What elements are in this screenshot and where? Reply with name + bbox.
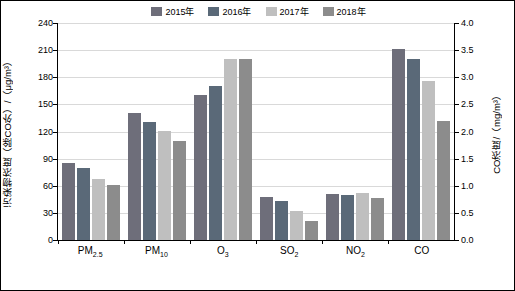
bar (275, 201, 288, 240)
right-tick-label: 3.5 (461, 45, 501, 55)
bar (224, 59, 237, 240)
category-label: PM2.5 (78, 245, 103, 258)
right-tick-label: 0.5 (461, 208, 501, 218)
plot-area (57, 23, 455, 241)
category-separator (58, 240, 59, 244)
bar (194, 95, 207, 240)
bar (305, 221, 318, 240)
legend-item-2018: 2018年 (323, 5, 366, 18)
bar-group (190, 23, 256, 240)
bar (437, 121, 450, 240)
category-separator (322, 240, 323, 244)
left-tick-label: 30 (13, 208, 53, 218)
right-tick-mark (455, 186, 459, 187)
bar-group (322, 23, 388, 240)
right-tick-mark (455, 159, 459, 160)
left-tick-label: 120 (13, 127, 53, 137)
category-separator (124, 240, 125, 244)
bar (173, 141, 186, 240)
right-tick-mark (455, 104, 459, 105)
left-tick-label: 240 (13, 18, 53, 28)
bar-group (256, 23, 322, 240)
bar (77, 168, 90, 240)
bar (158, 131, 171, 240)
bar-group (58, 23, 124, 240)
right-tick-mark (455, 213, 459, 214)
bar (392, 49, 405, 240)
legend-label-2018: 2018年 (337, 5, 366, 18)
right-tick-label: 1.0 (461, 181, 501, 191)
right-tick-label: 4.0 (461, 18, 501, 28)
bar (407, 59, 420, 240)
legend-label-2017: 2017年 (280, 5, 309, 18)
right-tick-mark (455, 240, 459, 241)
left-tick-label: 210 (13, 45, 53, 55)
chart-legend: 2015年 2016年 2017年 2018年 (1, 5, 515, 18)
bar (341, 195, 354, 240)
right-tick-mark (455, 23, 459, 24)
legend-item-2017: 2017年 (266, 5, 309, 18)
bar (326, 194, 339, 240)
legend-swatch-2015 (151, 7, 162, 16)
bar (356, 193, 369, 240)
right-tick-label: 2.0 (461, 127, 501, 137)
category-separator (256, 240, 257, 244)
right-tick-mark (455, 50, 459, 51)
bar (371, 198, 384, 240)
bar (422, 81, 435, 240)
category-label: NO2 (346, 245, 365, 258)
right-tick-label: 0.0 (461, 235, 501, 245)
bar (92, 179, 105, 240)
legend-label-2015: 2015年 (165, 5, 194, 18)
bar-groups (58, 23, 454, 240)
left-tick-label: 60 (13, 181, 53, 191)
legend-swatch-2018 (323, 7, 334, 16)
right-tick-label: 1.5 (461, 154, 501, 164)
bar (62, 163, 75, 240)
left-tick-label: 180 (13, 72, 53, 82)
category-label: SO2 (280, 245, 298, 258)
legend-label-2016: 2016年 (222, 5, 251, 18)
category-separator (388, 240, 389, 244)
category-label: PM10 (145, 245, 168, 258)
bar (143, 122, 156, 240)
right-tick-label: 3.0 (461, 72, 501, 82)
bar (209, 86, 222, 240)
category-separator (190, 240, 191, 244)
chart-container: 2015年 2016年 2017年 2018年 污染物浓度（除CO外）/（μg/… (0, 0, 515, 291)
right-tick-mark (455, 132, 459, 133)
left-tick-label: 150 (13, 99, 53, 109)
bar (239, 59, 252, 240)
legend-item-2015: 2015年 (151, 5, 194, 18)
category-label: CO (414, 245, 429, 256)
left-tick-label: 90 (13, 154, 53, 164)
right-tick-mark (455, 77, 459, 78)
legend-swatch-2017 (266, 7, 277, 16)
bar (260, 197, 273, 240)
bar-group (124, 23, 190, 240)
legend-swatch-2016 (208, 7, 219, 16)
legend-item-2016: 2016年 (208, 5, 251, 18)
bar-group (388, 23, 454, 240)
category-label: O3 (217, 245, 229, 258)
bar (107, 185, 120, 240)
left-tick-label: 0 (13, 235, 53, 245)
bar (290, 211, 303, 240)
bar (128, 113, 141, 240)
right-tick-label: 2.5 (461, 99, 501, 109)
